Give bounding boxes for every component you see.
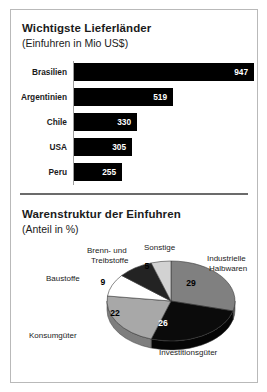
pie-value-label: 9	[101, 277, 106, 287]
bar-category-label: Chile	[11, 113, 67, 131]
bar-category-label: USA	[11, 138, 67, 156]
bar-chart-subtitle: (Einfuhren in Mio US$)	[22, 37, 128, 49]
pie-category-label: Investitionsgüter	[159, 348, 217, 358]
bar: 519	[74, 88, 173, 106]
bar-row: USA305	[11, 138, 257, 156]
bar-row: Argentinien519	[11, 88, 257, 106]
pie-category-label: Baustoffe	[46, 274, 80, 284]
bar-category-label: Brasilien	[11, 63, 67, 81]
pie-category-label: Konsumgüter	[29, 331, 77, 341]
bar-category-label: Peru	[11, 163, 67, 181]
pie-value-label: 29	[186, 278, 196, 288]
pie-category-label: Industrielle	[207, 254, 246, 264]
panel-divider	[20, 193, 248, 195]
bar: 305	[74, 138, 132, 156]
pie-value-label: 26	[158, 318, 168, 328]
bar-category-label: Argentinien	[11, 88, 67, 106]
pie-chart-plot: 292622995 Brenn- undTreibstoffeSonstigeI…	[11, 238, 257, 382]
pie-chart-panel: Warenstruktur der Einfuhren (Anteil in %…	[11, 196, 257, 382]
pie-category-label: Halbwaren	[209, 264, 247, 274]
bar: 947	[74, 63, 254, 81]
pie-category-label: Brenn- und	[87, 246, 127, 256]
bar: 255	[74, 163, 122, 181]
bar-chart-title: Wichtigste Lieferländer	[22, 22, 151, 34]
bar-row: Brasilien947	[11, 63, 257, 81]
bar-value-label: 330	[117, 113, 131, 131]
pie-category-label: Treibstoffe	[91, 256, 128, 266]
bar-value-label: 255	[102, 163, 116, 181]
figure-page: Wichtigste Lieferländer (Einfuhren in Mi…	[0, 0, 267, 392]
bar-chart-panel: Wichtigste Lieferländer (Einfuhren in Mi…	[11, 10, 257, 192]
bar: 330	[74, 113, 137, 131]
bar-row: Peru255	[11, 163, 257, 181]
bar-value-label: 947	[234, 63, 248, 81]
pie-value-label: 22	[110, 308, 120, 318]
pie-chart-title: Warenstruktur der Einfuhren	[22, 208, 181, 220]
bar-value-label: 305	[112, 138, 126, 156]
figure-frame: Wichtigste Lieferländer (Einfuhren in Mi…	[10, 9, 258, 383]
bar-value-label: 519	[153, 88, 167, 106]
bar-chart-plot: Brasilien947Argentinien519Chile330USA305…	[11, 61, 257, 187]
pie-value-label: 5	[145, 261, 150, 271]
bar-row: Chile330	[11, 113, 257, 131]
pie-chart-subtitle: (Anteil in %)	[22, 223, 79, 235]
pie-category-label: Sonstige	[144, 243, 175, 253]
